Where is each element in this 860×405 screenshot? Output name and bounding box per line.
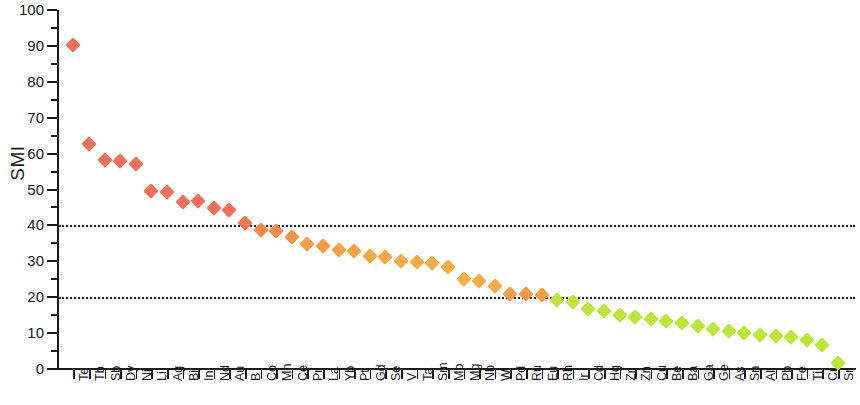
x-tick-label-cu: Cu: [656, 365, 669, 381]
y-tick-major: [47, 9, 57, 11]
x-tick-label-te: Te: [78, 368, 91, 381]
y-tick-label: 80: [4, 74, 44, 89]
data-point-nd: [206, 200, 222, 216]
y-tick-label: 50: [4, 182, 44, 197]
data-point-ta: [409, 254, 425, 270]
data-point-ti: [799, 332, 815, 348]
y-tick-label: 20: [4, 289, 44, 304]
data-point-li: [144, 183, 160, 199]
x-tick-label-ta: Ta: [422, 368, 435, 381]
y-tick-major: [47, 224, 57, 226]
x-tick-label-dy: Dy: [125, 366, 138, 381]
x-tick-label-rh: Rh: [562, 365, 575, 381]
y-tick-major: [47, 153, 57, 155]
y-tick-minor: [51, 135, 57, 137]
y-tick-major: [47, 260, 57, 262]
data-point-sb: [97, 152, 113, 168]
x-tick-label-mn: Mn: [281, 364, 294, 381]
data-point-pr: [300, 236, 316, 252]
data-point-ce: [284, 229, 300, 245]
y-tick-label: 60: [4, 146, 44, 161]
x-tick-label-zr: Zr: [625, 369, 638, 381]
data-point-au: [222, 203, 238, 219]
data-point-tb: [81, 136, 97, 152]
y-axis-line: [57, 10, 59, 370]
y-tick-label: 100: [4, 2, 44, 17]
y-tick-major: [47, 189, 57, 191]
y-tick-label: 70: [4, 110, 44, 125]
x-tick-label-pd: Pd: [515, 366, 528, 381]
data-point-w: [487, 278, 503, 294]
data-point-ba: [674, 315, 690, 331]
x-tick-label-ge: Ge: [718, 364, 731, 381]
data-point-ni: [128, 157, 144, 173]
x-tick-label-ti: Ti: [812, 371, 825, 381]
data-point-sn: [737, 325, 753, 341]
x-tick-label-yb: Yb: [344, 366, 357, 381]
x-tick-label-sn: Sn: [749, 366, 762, 381]
y-tick-minor: [51, 350, 57, 352]
data-point-ga: [690, 318, 706, 334]
data-point-hg: [596, 303, 612, 319]
y-tick-major: [47, 296, 57, 298]
y-tick-major: [47, 117, 57, 119]
data-point-gd: [362, 248, 378, 264]
x-tick-label-co: Co: [266, 365, 279, 381]
y-tick-minor: [51, 27, 57, 29]
data-point-te: [66, 37, 82, 53]
data-point-la: [315, 238, 331, 254]
data-point-yb: [331, 242, 347, 258]
data-point-cd: [581, 301, 597, 317]
data-point-zr: [612, 307, 628, 323]
x-tick-label-as: As: [734, 366, 747, 381]
data-point-zn: [627, 310, 643, 326]
y-tick-label: 0: [4, 361, 44, 376]
data-point-in: [190, 193, 206, 209]
y-tick-minor: [51, 171, 57, 173]
y-tick-label: 40: [4, 217, 44, 232]
data-point-bi: [175, 194, 191, 210]
data-point-cu: [643, 312, 659, 328]
data-point-b: [237, 215, 253, 231]
reference-line: [59, 297, 855, 299]
x-tick-label-pt: Pt: [359, 369, 372, 381]
x-tick-label-w: W: [500, 369, 513, 381]
data-point-ru: [518, 287, 534, 303]
x-tick-label-v: V: [406, 373, 419, 381]
y-tick-minor: [51, 314, 57, 316]
x-tick-label-se: Se: [390, 366, 403, 381]
x-tick-label-bi: Bi: [188, 370, 201, 381]
y-tick-minor: [51, 63, 57, 65]
x-tick-label-ba: Ba: [687, 366, 700, 381]
y-tick-major: [47, 81, 57, 83]
x-tick-label-be: Be: [671, 366, 684, 381]
x-tick-label-mg: Mg: [469, 364, 482, 381]
y-tick-label: 10: [4, 325, 44, 340]
data-point-fe: [783, 330, 799, 346]
x-tick-label-b: B: [250, 373, 263, 381]
x-tick-label-nb: Nb: [484, 365, 497, 381]
data-point-mg: [456, 271, 472, 287]
data-point-ge: [705, 321, 721, 337]
x-tick-label-pr: Pr: [312, 369, 325, 382]
data-point-ag: [159, 184, 175, 200]
x-tick-label-fe: Fe: [796, 366, 809, 381]
x-tick-label-zn: Zn: [640, 366, 653, 381]
y-tick-minor: [51, 278, 57, 280]
x-tick-label-hg: Hg: [609, 365, 622, 381]
x-tick-label-sm: Sm: [437, 362, 450, 381]
data-point-se: [378, 249, 394, 265]
x-tick-label-mo: Mo: [453, 364, 466, 381]
data-point-nb: [471, 273, 487, 289]
x-tick-label-ga: Ga: [703, 364, 716, 381]
x-tick-label-nd: Nd: [219, 365, 232, 381]
x-tick-label-cd: Cd: [593, 365, 606, 381]
data-point-eu: [534, 287, 550, 303]
y-tick-minor: [51, 242, 57, 244]
y-tick-major: [47, 332, 57, 334]
smi-scatter-chart: SMI 0102030405060708090100 TeTbSbDyNiLiA…: [0, 0, 860, 405]
x-tick-label-ni: Ni: [141, 369, 154, 381]
x-tick-label-ce: Ce: [297, 365, 310, 381]
y-tick-minor: [51, 206, 57, 208]
x-tick-label-ir: Ir: [578, 373, 591, 381]
